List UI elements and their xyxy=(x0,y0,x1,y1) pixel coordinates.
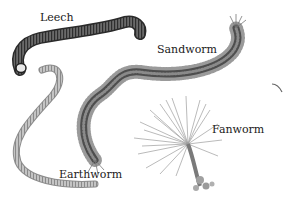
sandworm-drawing xyxy=(84,14,246,174)
fanworm-label: Fanworm xyxy=(212,124,264,135)
sandworm-label: Sandworm xyxy=(157,44,217,55)
leech-label: Leech xyxy=(40,12,74,23)
worm-drawings xyxy=(0,0,284,201)
worm-illustration: Leech Sandworm Fanworm Earthworm xyxy=(0,0,284,201)
fanworm-drawing xyxy=(134,96,222,191)
leech-drawing xyxy=(16,22,140,73)
earthworm-label: Earthworm xyxy=(59,169,122,180)
stray-mark xyxy=(272,84,282,92)
